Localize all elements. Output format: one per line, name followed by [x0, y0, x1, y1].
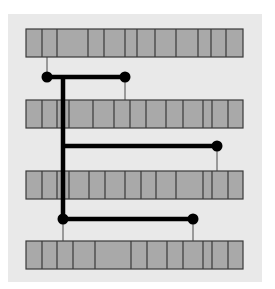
node-dot	[212, 141, 223, 152]
row-3-bar	[26, 171, 243, 199]
node-dot	[188, 214, 199, 225]
row-2-bar	[26, 100, 243, 128]
node-dot	[120, 72, 131, 83]
node-dot	[42, 72, 53, 83]
diagram-stage	[0, 0, 275, 289]
bus-connection-diagram	[0, 0, 275, 289]
row-4-bar	[26, 241, 243, 269]
node-dot	[58, 214, 69, 225]
